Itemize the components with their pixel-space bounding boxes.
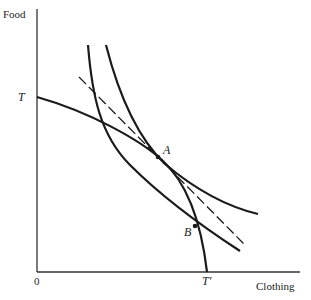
diagram-canvas: Food Clothing 0 T T′ A B (0, 0, 311, 300)
indifference-curve-outer (106, 45, 258, 214)
x-axis-label: Clothing (256, 280, 295, 292)
point-b-label: B (184, 225, 192, 239)
point-a-label: A (162, 143, 171, 157)
point-a (156, 155, 161, 160)
origin-label: 0 (34, 275, 40, 287)
ppf-end-label: T′ (202, 274, 212, 288)
y-axis-label: Food (3, 8, 26, 20)
ppf-start-label: T (18, 90, 26, 104)
price-line-dashed (79, 77, 245, 245)
point-b (193, 224, 198, 229)
production-possibility-frontier (37, 97, 207, 272)
